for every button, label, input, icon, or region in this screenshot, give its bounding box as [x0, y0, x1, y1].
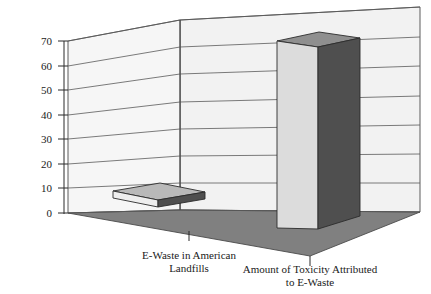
y-tick-label-0: 0 [24, 208, 52, 219]
bar-amount-of-toxicity-attributed-to-e-waste[interactable] [277, 32, 360, 229]
y-tick-label-60: 60 [24, 61, 52, 72]
y-tick-label-70: 70 [24, 36, 52, 47]
y-tick-label-40: 40 [24, 110, 52, 121]
y-tick-label-20: 20 [24, 159, 52, 170]
category-label-2: Amount of Toxicity Attributed to E-Waste [215, 263, 405, 289]
y-axis [58, 41, 68, 214]
category-label-1-line-1: E-Waste in American [142, 249, 236, 261]
y-tick-label-50: 50 [24, 85, 52, 96]
bar-2-front-face [277, 41, 318, 229]
category-label-2-line-1: Amount of Toxicity Attributed [243, 263, 377, 275]
y-tick-label-30: 30 [24, 134, 52, 145]
bar-chart-3d: 70 60 50 40 30 20 10 0 E-Waste in Americ… [0, 0, 431, 294]
category-label-2-line-2: to E-Waste [215, 276, 405, 289]
bar-2-side-face [318, 38, 360, 229]
y-tick-label-10: 10 [24, 183, 52, 194]
